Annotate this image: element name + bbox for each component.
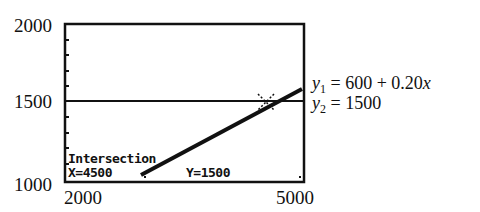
y-readout: Y=1500 bbox=[186, 166, 230, 179]
x-readout: X=4500 bbox=[68, 166, 112, 179]
equation-y2: y2 = 1500 bbox=[312, 94, 381, 118]
calculator-graph bbox=[0, 0, 480, 212]
intersection-label: Intersection bbox=[68, 152, 156, 165]
